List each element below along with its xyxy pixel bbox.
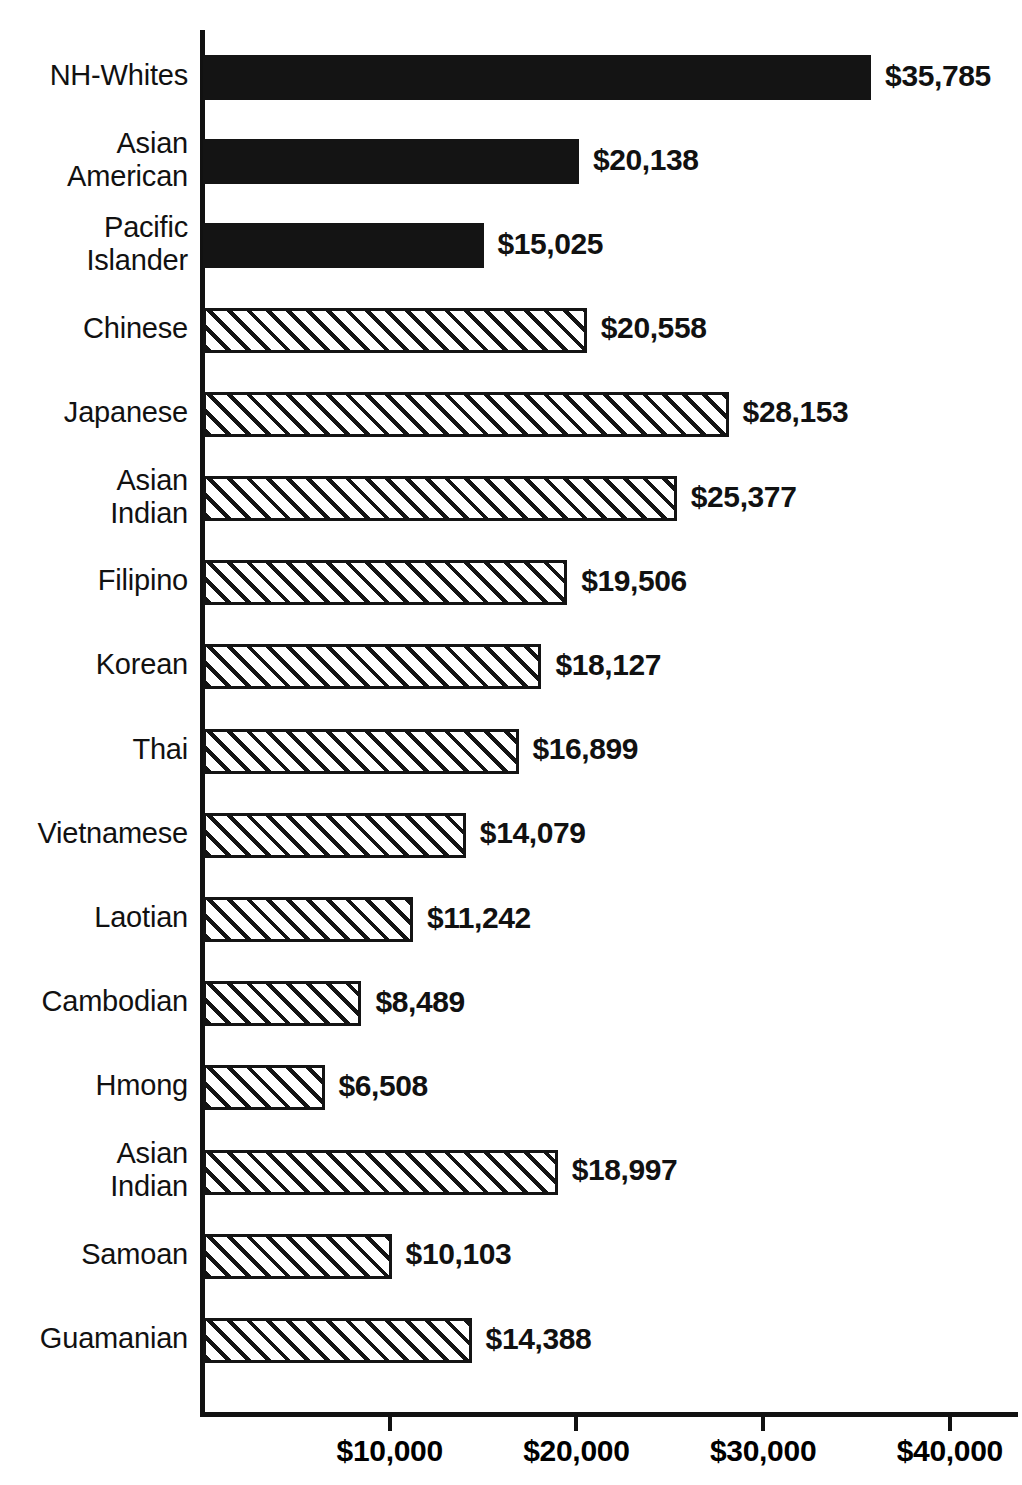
- bar: [203, 981, 361, 1026]
- bar: [203, 897, 413, 942]
- x-tick-label: $40,000: [897, 1434, 1003, 1468]
- category-label: Asian Indian: [110, 1137, 188, 1203]
- bar-value-label: $10,103: [406, 1237, 512, 1271]
- category-label: Filipino: [98, 564, 188, 597]
- bar: [203, 139, 579, 184]
- x-tick-mark: [388, 1417, 392, 1431]
- bar: [203, 392, 729, 437]
- bar-value-label: $11,242: [427, 901, 531, 935]
- category-label: Laotian: [94, 901, 188, 934]
- bar-value-label: $15,025: [498, 227, 604, 261]
- category-label: NH-Whites: [50, 59, 188, 92]
- bar-value-label: $14,388: [486, 1322, 592, 1356]
- bar: [203, 223, 484, 268]
- bar-chart: $10,000$20,000$30,000$40,000 NH-Whites$3…: [0, 0, 1022, 1485]
- bar: [203, 1318, 472, 1363]
- category-label: Korean: [96, 648, 188, 681]
- bar-value-label: $20,138: [593, 143, 699, 177]
- x-tick-label: $10,000: [337, 1434, 443, 1468]
- x-tick-mark: [574, 1417, 578, 1431]
- bar-value-label: $35,785: [885, 59, 991, 93]
- bar: [203, 1150, 558, 1195]
- category-label: Asian Indian: [110, 464, 188, 530]
- x-tick-label: $30,000: [710, 1434, 816, 1468]
- bar-value-label: $25,377: [691, 480, 797, 514]
- category-label: Japanese: [64, 396, 188, 429]
- category-label: Pacific Islander: [86, 211, 188, 277]
- category-label: Guamanian: [40, 1322, 188, 1355]
- category-label: Thai: [132, 733, 188, 766]
- bar: [203, 644, 541, 689]
- bar-value-label: $14,079: [480, 816, 586, 850]
- category-label: Samoan: [81, 1238, 188, 1271]
- category-label: Asian American: [67, 127, 188, 193]
- x-tick-mark: [761, 1417, 765, 1431]
- bar: [203, 729, 519, 774]
- bar: [203, 1234, 392, 1279]
- bar-value-label: $16,899: [533, 732, 639, 766]
- category-label: Hmong: [96, 1069, 189, 1102]
- category-label: Chinese: [83, 312, 188, 345]
- bar: [203, 560, 567, 605]
- bar: [203, 813, 466, 858]
- bar-value-label: $18,997: [572, 1153, 678, 1187]
- bar-value-label: $28,153: [743, 395, 849, 429]
- bar-value-label: $20,558: [601, 311, 707, 345]
- bar-value-label: $8,489: [375, 985, 464, 1019]
- bar-value-label: $6,508: [339, 1069, 428, 1103]
- bar: [203, 476, 677, 521]
- category-label: Cambodian: [41, 985, 188, 1018]
- x-axis-line: [200, 1412, 1018, 1417]
- bar: [203, 308, 587, 353]
- x-tick-label: $20,000: [523, 1434, 629, 1468]
- category-label: Vietnamese: [37, 817, 188, 850]
- bar: [203, 1065, 325, 1110]
- bar: [203, 55, 871, 100]
- bar-value-label: $19,506: [581, 564, 687, 598]
- bar-value-label: $18,127: [555, 648, 661, 682]
- x-tick-mark: [948, 1417, 952, 1431]
